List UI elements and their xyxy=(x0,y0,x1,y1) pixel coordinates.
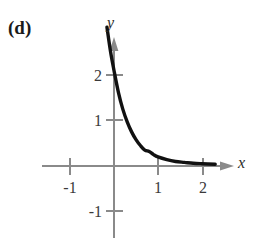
y-tick-label-2: 2 xyxy=(82,68,102,84)
panel-label: (d) xyxy=(8,18,31,37)
exponential-decay-graph-figure: (d) y x -1 1 2 2 1 -1 xyxy=(0,0,264,246)
y-tick-label-1: 1 xyxy=(82,113,102,129)
x-tick-label-1: 1 xyxy=(148,180,168,196)
x-tick-label-neg1: -1 xyxy=(58,180,82,196)
y-tick-label-neg1: -1 xyxy=(74,204,102,220)
y-axis-label: y xyxy=(107,15,114,31)
graph-canvas xyxy=(0,0,264,246)
x-axis-arrowhead xyxy=(220,162,234,171)
exponential-curve xyxy=(107,27,215,164)
x-tick-label-2: 2 xyxy=(193,180,213,196)
x-axis-label: x xyxy=(238,155,245,171)
